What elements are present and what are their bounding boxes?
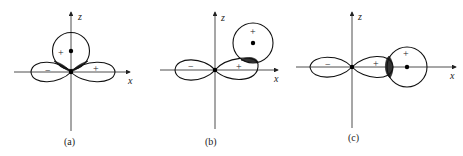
positive-lobe-sign: + [236,61,242,72]
panel-a: z x + − + (a) [14,11,133,148]
panel-c: z x + − + (c) [296,11,456,144]
p-nucleus [213,68,217,72]
s-sign: + [250,26,256,37]
negative-lobe-sign: − [45,65,51,76]
p-nucleus [69,70,73,74]
s-nucleus [251,41,255,45]
caption-a: (a) [64,136,75,148]
positive-lobe-sign: + [373,58,379,69]
p-nucleus [350,65,354,69]
negative-lobe-sign: − [188,61,194,72]
s-nucleus [405,65,409,69]
z-axis-label: z [220,12,225,23]
caption-c: (c) [348,132,359,144]
s-sign: + [58,47,64,58]
positive-lobe-sign: + [93,63,99,74]
s-sign: + [403,48,409,59]
x-axis-label: x [273,73,279,84]
orbital-overlap-figure: z x + − + (a) z x + − + (b) z x [0,0,463,156]
x-axis-label: x [449,70,455,81]
panel-b: z x + − + (b) [160,12,279,148]
x-axis-label: x [127,75,133,86]
z-axis-label: z [357,11,362,22]
s-nucleus [69,49,73,53]
negative-lobe-sign: − [325,59,331,70]
caption-b: (b) [205,136,217,148]
z-axis-label: z [77,11,82,22]
